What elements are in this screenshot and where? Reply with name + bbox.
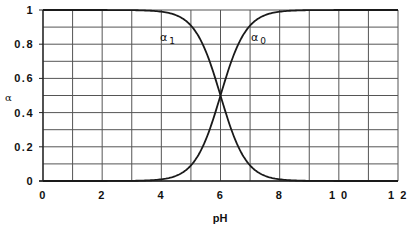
x-tick-label: 2	[98, 189, 106, 201]
y-tick-label: 0.2	[14, 141, 34, 153]
x-tick-label: 1 0	[329, 189, 349, 201]
y-axis-label: α	[5, 92, 12, 103]
grid-lines	[39, 10, 398, 181]
x-tick-label: 0	[39, 189, 47, 201]
y-tick-label: 0	[26, 175, 34, 187]
x-tick-label: 6	[217, 189, 225, 201]
y-tick-label: 0.8	[14, 38, 34, 50]
x-tick-label: 1 2	[388, 189, 408, 201]
x-tick-label: 4	[158, 189, 166, 201]
y-axis-ticks: 00.20.40.60.81	[14, 4, 43, 187]
y-tick-label: 0.4	[14, 107, 34, 119]
x-axis-ticks: 024681 01 2	[39, 189, 408, 201]
x-tick-label: 8	[276, 189, 284, 201]
y-tick-label: 0.6	[14, 72, 34, 84]
alpha-vs-ph-chart: 00.20.40.60.81 024681 01 2 α pH α1 α0	[0, 0, 410, 232]
x-axis-label: pH	[213, 212, 228, 224]
y-tick-label: 1	[26, 4, 34, 16]
